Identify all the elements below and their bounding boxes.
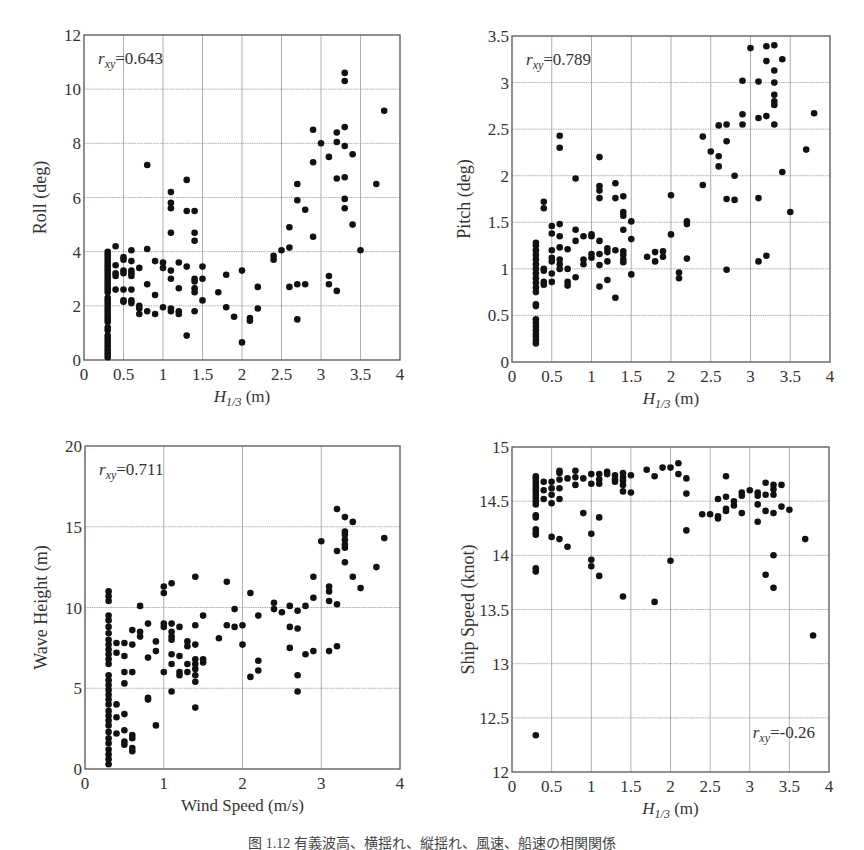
data-point [152, 292, 159, 299]
data-point [349, 151, 356, 158]
y-axis-label: Pitch (deg) [454, 159, 475, 238]
y-tick-labels: 024681012 [64, 26, 82, 370]
data-point [700, 182, 707, 189]
data-point [192, 622, 199, 629]
data-point [294, 607, 301, 614]
y-tick-label: 2 [501, 167, 510, 186]
data-point [120, 257, 127, 264]
data-point [334, 506, 341, 513]
data-point [294, 181, 301, 188]
y-tick-label: 10 [64, 80, 81, 99]
data-point [541, 267, 548, 274]
data-points [533, 42, 818, 347]
data-point [247, 590, 254, 597]
figure-caption: 图 1.12 有義波高、横揺れ、縦揺れ、風速、船速の相関関係 [0, 832, 864, 850]
data-point [334, 548, 341, 555]
data-point [763, 253, 770, 260]
data-point [183, 263, 190, 270]
data-point [572, 175, 579, 182]
data-point [612, 478, 619, 485]
data-point [596, 154, 603, 161]
x-tick-label: 4 [826, 367, 835, 386]
data-point [541, 205, 548, 212]
data-point [239, 641, 246, 648]
data-point [770, 585, 777, 592]
data-point [161, 590, 168, 597]
data-point [762, 572, 769, 579]
data-point [168, 205, 175, 212]
y-tick-label: 15 [65, 518, 82, 537]
data-point [334, 129, 341, 136]
data-point [341, 174, 348, 181]
y-tick-label: 2 [73, 297, 82, 316]
data-point [628, 218, 635, 225]
data-point [739, 492, 746, 499]
data-point [287, 624, 294, 631]
data-point [588, 254, 595, 261]
data-point [556, 266, 563, 273]
x-tick-labels: 01234 [81, 774, 405, 793]
data-point [588, 471, 595, 478]
data-point [113, 730, 120, 737]
x-tick-label: 3 [746, 367, 755, 386]
data-point [612, 294, 619, 301]
subplot-pitch: 00.511.522.533.5400.511.522.533.5H1/3 (m… [454, 27, 835, 411]
data-point [548, 491, 555, 498]
data-point [628, 472, 635, 479]
data-point [286, 284, 293, 291]
data-point [596, 514, 603, 521]
data-point [556, 145, 563, 152]
x-tick-label: 0 [81, 774, 90, 793]
data-point [715, 122, 722, 129]
x-tick-label: 1.5 [192, 365, 213, 384]
data-point [326, 154, 333, 161]
data-point [145, 620, 152, 627]
x-tick-label: 3.5 [780, 367, 801, 386]
data-point [121, 653, 128, 660]
data-point [184, 669, 191, 676]
data-point [770, 491, 777, 498]
y-tick-label: 13 [492, 655, 509, 674]
data-point [192, 679, 199, 686]
subplot-ship-speed: 00.511.522.533.541212.51313.51414.515H1/… [458, 438, 834, 821]
data-point [342, 514, 349, 521]
data-point [191, 238, 198, 245]
data-point [747, 45, 754, 52]
data-point [723, 196, 730, 203]
data-point [533, 301, 540, 308]
data-point [540, 487, 547, 494]
data-point [739, 111, 746, 118]
data-point [168, 651, 175, 658]
data-point [668, 192, 675, 199]
data-point [541, 199, 548, 206]
data-point [334, 601, 341, 608]
data-point [176, 672, 183, 679]
data-point [604, 249, 611, 256]
data-point [675, 471, 682, 478]
data-point [215, 289, 222, 296]
data-point [112, 273, 119, 280]
data-point [168, 276, 175, 283]
data-point [652, 258, 659, 265]
subplot-wave-height: 0123405101520Wind Speed (m/s)Wave Height… [31, 437, 405, 815]
data-point [113, 701, 120, 708]
x-axis-label: H1/3 (m) [213, 387, 270, 409]
data-point [302, 281, 309, 288]
data-point [168, 267, 175, 274]
data-point [112, 243, 119, 250]
data-point [294, 672, 301, 679]
data-point [153, 722, 160, 729]
data-point [231, 606, 238, 613]
data-point [628, 236, 635, 243]
data-point [548, 500, 555, 507]
data-point [803, 146, 810, 153]
y-tick-label: 20 [65, 437, 82, 456]
data-point [644, 253, 651, 260]
data-point [112, 262, 119, 269]
data-point [556, 470, 563, 477]
y-tick-label: 12.5 [479, 709, 509, 728]
data-point [357, 247, 364, 254]
data-point [129, 627, 136, 634]
y-tick-labels: 00.511.522.533.5 [488, 27, 509, 372]
x-tick-label: 0 [508, 367, 517, 386]
